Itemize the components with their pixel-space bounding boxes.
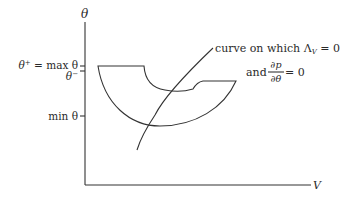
tick-label-min-theta: min θ xyxy=(48,110,78,122)
zero-curve xyxy=(137,48,213,150)
tick-label-theta-minus: θ− xyxy=(66,70,78,82)
annotation-frac-num: ∂p xyxy=(271,59,282,70)
annotation-line2-suffix: = 0 xyxy=(285,66,305,79)
region-outline xyxy=(98,66,236,126)
annotation-frac-den: ∂θ xyxy=(271,73,282,84)
y-axis-label: θ xyxy=(81,7,89,21)
x-axis-label: V xyxy=(313,179,322,192)
diagram: θ V θ+ = max θ θ− min θ curve on which Λ… xyxy=(0,0,345,200)
annotation-line2-prefix: and xyxy=(246,66,267,79)
annotation-line1: curve on which ΛV = 0 xyxy=(215,42,340,56)
